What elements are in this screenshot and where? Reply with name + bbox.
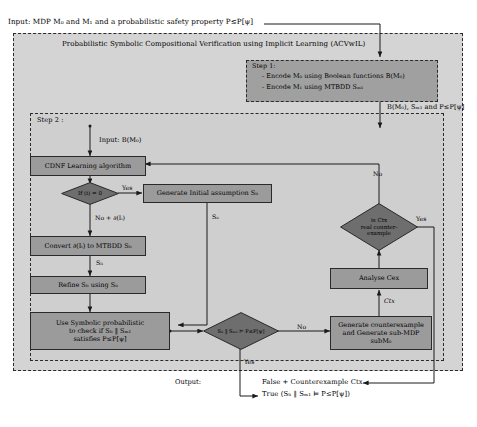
edge-label-ctx: Ctx (384, 297, 395, 304)
node-gen-cex-line-1: Generate counterexample (338, 321, 424, 329)
node-cdnf-label: CDNF Learning algorithm (45, 162, 131, 170)
node-symbolic-line-3: satisfies P≤P[ψ] (73, 335, 126, 343)
output-true-branch: True (Sₗᵢ ‖ Sₘ₁ ⊨ P≤P[ψ]) (262, 391, 350, 399)
edge-label-yes-initial: Yes (122, 184, 132, 191)
input-line: Input: MDP M₀ and M₁ and a probabilistic… (8, 18, 253, 26)
decision-satisfies-shape (203, 312, 279, 350)
node-convert-label: Convert ∂(Iᵢ) to MTBDD Sₗᵢ (45, 242, 132, 250)
step2-input-label: Input: B(M₀) (99, 137, 141, 144)
node-refine-assumption[interactable]: Refine Sₗᵢ using Sᵢᵢ (30, 276, 146, 294)
decision-is-ctx-shape (340, 203, 418, 251)
output-false-branch: False + Counterexample Ctx (262, 379, 363, 387)
step1-header: Step 1: (252, 63, 276, 70)
output-label: Output: (175, 379, 201, 386)
decision-if-i-zero-shape (61, 182, 119, 205)
node-convert-to-mtbdd[interactable]: Convert ∂(Iᵢ) to MTBDD Sₗᵢ (30, 236, 146, 256)
node-symbolic-line-1: Use Symbolic probabilistic (56, 319, 144, 327)
node-refine-label: Refine Sₗᵢ using Sᵢᵢ (58, 281, 118, 289)
node-generate-counterexample[interactable]: Generate counterexample and Generate sub… (330, 316, 432, 350)
edge-label-yes-ctx: Yes (416, 215, 426, 222)
diagram-canvas: Input: MDP M₀ and M₁ and a probabilistic… (0, 0, 477, 427)
step1-line-1: - Encode M₀ using Boolean functions B(M₀… (262, 73, 405, 80)
node-generate-initial-assumption[interactable]: Generate Initial assumption Sₗᵢ (143, 184, 272, 203)
node-analyse-cex[interactable]: Analyse Cex (330, 268, 428, 289)
node-gen-cex-line-3: subM₀ (371, 337, 392, 345)
edge-label-no-right-loop: No (373, 170, 382, 177)
node-symbolic-probabilistic-check[interactable]: Use Symbolic probabilistic to check if S… (30, 312, 170, 350)
edge-label-s-li-convert: Sₗᵢ (96, 259, 103, 266)
edge-label-yes-satisfies: Yes (244, 358, 254, 365)
node-gen-cex-line-2: and Generate sub-MDP (343, 329, 420, 337)
edge-label-s-ii-feedback: Sᵢᵢ (212, 213, 219, 220)
step2-header: Step 2 : (37, 117, 63, 124)
framework-title: Probabilistic Symbolic Compositional Ver… (62, 41, 365, 49)
edge-label-no-partial: No + ∂(Iᵢ) (95, 214, 125, 221)
edge-label-no-satisfies: No (297, 323, 306, 330)
node-symbolic-line-2: to check if Sₗᵢ ‖ Sₘ₁ (69, 327, 131, 335)
node-cdnf-learning[interactable]: CDNF Learning algorithm (30, 156, 146, 176)
decision-satisfies-property[interactable]: Sₗᵢ ‖ Sₘ₁ ⊨ P≤P[ψ] (203, 312, 279, 350)
node-generate-initial-label: Generate Initial assumption Sₗᵢ (157, 189, 258, 197)
decision-is-ctx-real[interactable]: is Ctx real counter- example (340, 203, 418, 251)
decision-if-i-zero[interactable]: If (i) = 0 (61, 182, 119, 205)
step1-line-2: - Encode M₁ using MTBDD Sₘ₁ (262, 84, 364, 91)
node-analyse-label: Analyse Cex (359, 274, 399, 282)
step1-output-label: B(M₀), Sₘ₁ and P≤P[ψ] (387, 104, 464, 111)
